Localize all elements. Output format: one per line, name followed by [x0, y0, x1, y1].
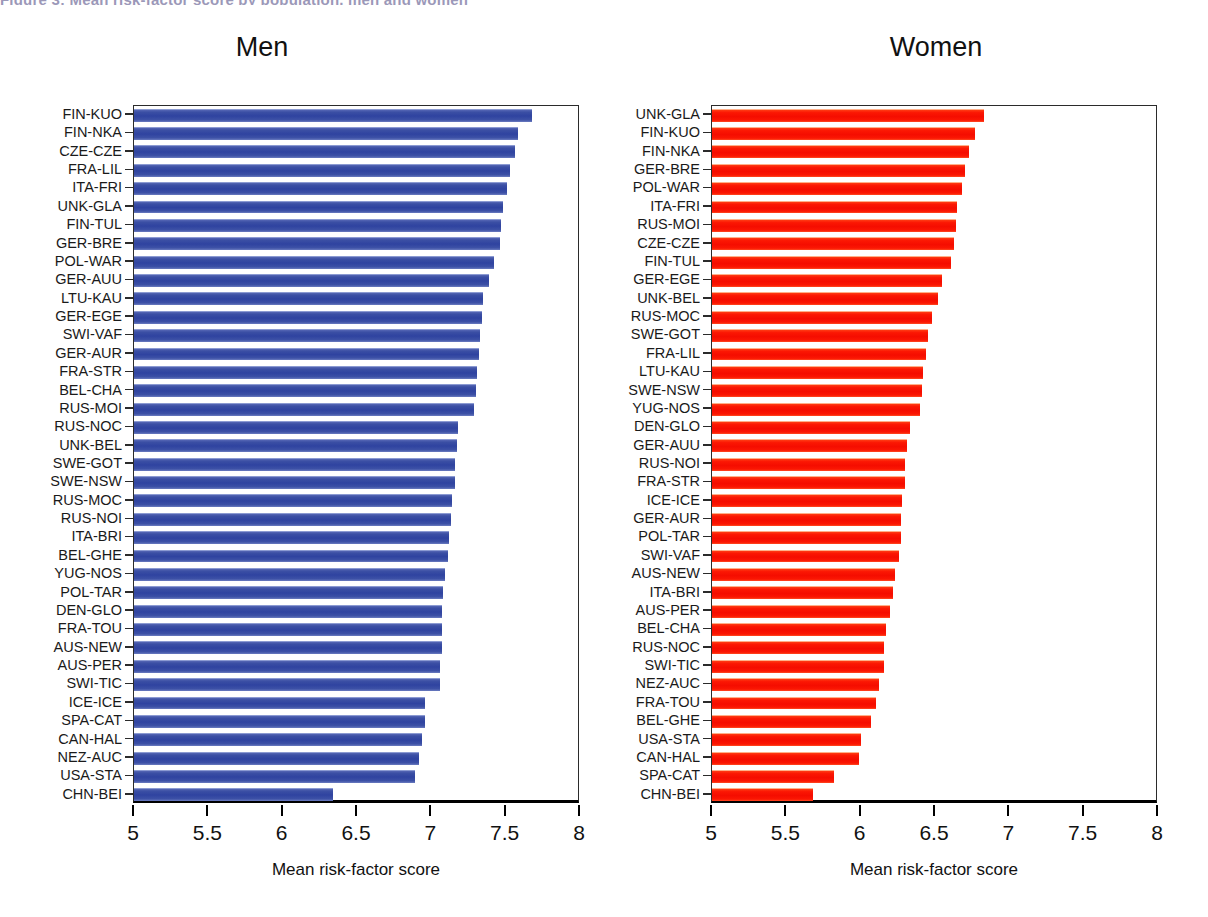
x-axis-tick-label: 5	[127, 821, 139, 845]
category-tick	[125, 756, 133, 758]
bar-row	[712, 348, 1156, 361]
x-axis-tick	[1082, 805, 1084, 816]
x-axis-tick-label: 5	[705, 821, 717, 845]
category-tick	[125, 279, 133, 281]
bar-row	[134, 770, 578, 783]
category-label: GER-AUR	[580, 511, 700, 526]
bar-row	[712, 623, 1156, 636]
bar	[134, 311, 482, 324]
bar	[712, 219, 956, 232]
bar	[134, 384, 476, 397]
bar-row	[712, 127, 1156, 140]
category-tick	[125, 738, 133, 740]
category-tick	[125, 407, 133, 409]
category-label: CHN-BEI	[580, 787, 700, 802]
category-tick	[703, 664, 711, 666]
bar	[134, 733, 422, 746]
bar-row	[134, 788, 578, 801]
category-tick	[703, 646, 711, 648]
bar-row	[712, 256, 1156, 269]
category-label: SWI-TIC	[580, 658, 700, 673]
bar-row	[134, 752, 578, 765]
bar-row	[712, 311, 1156, 324]
bar	[134, 494, 452, 507]
bar	[712, 494, 902, 507]
bar	[712, 605, 890, 618]
category-label: SPA-CAT	[580, 768, 700, 783]
bar-row	[134, 586, 578, 599]
bar	[134, 458, 455, 471]
bar-row	[134, 678, 578, 691]
category-label: POL-WAR	[580, 180, 700, 195]
bar-row	[134, 219, 578, 232]
x-axis-tick	[132, 805, 134, 816]
bar-row	[134, 605, 578, 618]
bar-row	[134, 164, 578, 177]
category-tick	[703, 720, 711, 722]
x-axis-tick-label: 7.5	[490, 821, 519, 845]
bar	[134, 568, 445, 581]
bar	[712, 292, 938, 305]
bar	[712, 182, 962, 195]
category-tick	[125, 462, 133, 464]
category-tick	[125, 646, 133, 648]
category-tick	[125, 628, 133, 630]
bar	[712, 274, 942, 287]
bar-row	[712, 513, 1156, 526]
bar-row	[712, 292, 1156, 305]
x-axis-tick-label: 6	[854, 821, 866, 845]
category-tick	[125, 297, 133, 299]
category-tick	[125, 371, 133, 373]
bar-row	[134, 366, 578, 379]
category-label: CAN-HAL	[580, 750, 700, 765]
category-label: SWI-VAF	[2, 327, 122, 342]
category-tick	[703, 389, 711, 391]
category-tick	[125, 260, 133, 262]
bar	[712, 439, 907, 452]
bar	[712, 348, 926, 361]
bar	[134, 586, 443, 599]
category-tick	[125, 334, 133, 336]
bar	[712, 660, 884, 673]
bar-row	[134, 384, 578, 397]
category-label: GER-EGE	[2, 309, 122, 324]
category-label: CHN-BEI	[2, 787, 122, 802]
bar	[134, 421, 458, 434]
bar-row	[134, 274, 578, 287]
bar-row	[712, 274, 1156, 287]
category-label: SPA-CAT	[2, 713, 122, 728]
category-label: ICE-ICE	[2, 695, 122, 710]
category-label: UNK-GLA	[580, 107, 700, 122]
category-tick	[125, 609, 133, 611]
category-label: BEL-CHA	[2, 383, 122, 398]
category-tick	[125, 664, 133, 666]
category-label: POL-TAR	[2, 585, 122, 600]
bar-row	[134, 256, 578, 269]
category-label: GER-EGE	[580, 272, 700, 287]
x-axis-tick	[1156, 805, 1158, 816]
category-tick	[703, 518, 711, 520]
bar-rows-women	[712, 106, 1156, 800]
category-label: CZE-CZE	[580, 236, 700, 251]
bar-row	[712, 403, 1156, 416]
category-tick	[703, 426, 711, 428]
bar	[134, 531, 449, 544]
category-tick	[703, 701, 711, 703]
bar-row	[134, 403, 578, 416]
category-label: SWE-GOT	[2, 456, 122, 471]
x-axis-tick	[429, 805, 431, 816]
bar-row	[134, 697, 578, 710]
bar	[134, 660, 440, 673]
bar-row	[134, 421, 578, 434]
category-label: SWE-GOT	[580, 327, 700, 342]
bar-row	[134, 733, 578, 746]
bar-row	[712, 476, 1156, 489]
category-tick	[703, 609, 711, 611]
bar-row	[712, 770, 1156, 783]
bar	[712, 586, 893, 599]
category-tick	[125, 113, 133, 115]
bar-row	[712, 329, 1156, 342]
bar	[134, 788, 333, 801]
bar-row	[712, 752, 1156, 765]
category-tick	[703, 371, 711, 373]
